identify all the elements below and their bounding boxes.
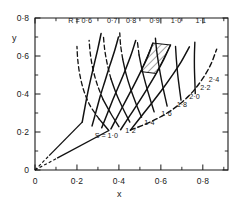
s-curve-1.4-solid	[111, 79, 130, 122]
s-curve-1.8-dashed	[137, 42, 139, 55]
label-S-2-4: 2·4	[209, 75, 219, 84]
lower-ray-dashed-1	[35, 158, 57, 170]
s-curve-1.6-dashed	[120, 33, 123, 59]
label-R-0-8: 0·8	[126, 16, 136, 25]
figure-root: y x 00·20·40·60·800·20·40·60·8 R = 0·60·…	[0, 0, 244, 208]
label-R-0-6: R = 0·6	[68, 16, 92, 25]
chart-canvas: 00·20·40·60·800·20·40·60·8 R = 0·60·70·8…	[0, 0, 244, 208]
label-R-0-9: 0·9	[149, 16, 159, 25]
upper-ray-dashed-0	[35, 156, 49, 170]
r-curve-family	[82, 34, 189, 131]
x-ticklabel-0: 0	[33, 176, 38, 186]
x-ticklabel-1: 0·2	[71, 176, 84, 186]
label-R-1-0: 1·0	[171, 16, 181, 25]
label-S-2-2: 2·2	[200, 83, 210, 92]
y-ticklabel-3: 0·6	[17, 51, 30, 61]
boundary-rays	[35, 122, 109, 170]
x-ticklabel-4: 0·8	[197, 176, 210, 186]
label-S-1-2: 1·2	[125, 126, 135, 135]
label-S-1-6: 1·6	[161, 109, 171, 118]
upper-ray-solid-0	[49, 122, 82, 156]
s-curve-2.2-solid	[176, 47, 181, 101]
label-S-1-0: S = 1·0	[95, 131, 118, 140]
y-ticklabel-0: 0	[24, 165, 29, 175]
label-S-2-0: 2·0	[189, 92, 199, 101]
s-curve-1.2-dashed	[89, 40, 103, 99]
x-ticklabel-3: 0·6	[155, 176, 168, 186]
label-S-1-8: 1·8	[177, 100, 187, 109]
y-ticklabel-4: 0·8	[17, 13, 30, 23]
y-ticklabel-2: 0·4	[17, 89, 30, 99]
label-S-1-4: 1·4	[144, 118, 154, 127]
label-R-1-1: 1·1	[196, 16, 206, 25]
s-curve-2.4-solid	[194, 42, 195, 93]
x-ticklabel-2: 0·4	[113, 176, 126, 186]
label-R-0-7: 0·7	[107, 16, 117, 25]
y-ticklabel-1: 0·2	[17, 127, 30, 137]
